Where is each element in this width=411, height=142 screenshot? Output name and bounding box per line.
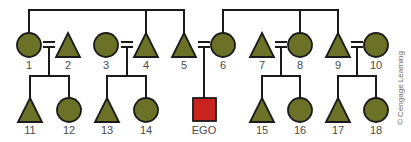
- male-icon-17: [326, 98, 350, 122]
- label-14: 14: [131, 125, 161, 136]
- label-6: 6: [208, 60, 238, 71]
- label-ego: EGO: [189, 125, 219, 136]
- male-icon-13: [95, 98, 119, 122]
- label-2: 2: [53, 60, 83, 71]
- female-icon-3: [94, 33, 118, 57]
- female-icon-8: [288, 33, 312, 57]
- label-5: 5: [169, 60, 199, 71]
- label-15: 15: [247, 125, 277, 136]
- male-icon-7: [250, 33, 274, 57]
- label-12: 12: [54, 125, 84, 136]
- label-7: 7: [247, 60, 277, 71]
- male-icon-9: [326, 33, 350, 57]
- male-icon-2: [56, 33, 80, 57]
- label-3: 3: [91, 60, 121, 71]
- label-10: 10: [361, 60, 391, 71]
- male-icon-4: [134, 33, 158, 57]
- copyright-credit: © Cengage Learning: [396, 51, 405, 125]
- ego-square-icon: [193, 98, 216, 121]
- female-icon-1: [17, 33, 41, 57]
- female-icon-14: [134, 98, 158, 122]
- label-18: 18: [361, 125, 391, 136]
- marriage-symbols: [43, 42, 363, 47]
- kinship-diagram: [0, 0, 411, 142]
- male-icon-15: [250, 98, 274, 122]
- label-13: 13: [92, 125, 122, 136]
- male-icon-5: [172, 33, 196, 57]
- label-17: 17: [323, 125, 353, 136]
- male-icon-11: [18, 98, 42, 122]
- label-11: 11: [15, 125, 45, 136]
- female-icon-10: [364, 33, 388, 57]
- female-icon-16: [288, 98, 312, 122]
- female-icon-6: [211, 33, 235, 57]
- label-8: 8: [285, 60, 315, 71]
- female-icon-12: [57, 98, 81, 122]
- connector-lines: [29, 10, 376, 98]
- label-1: 1: [14, 60, 44, 71]
- label-16: 16: [285, 125, 315, 136]
- female-icon-18: [364, 98, 388, 122]
- label-4: 4: [131, 60, 161, 71]
- label-9: 9: [323, 60, 353, 71]
